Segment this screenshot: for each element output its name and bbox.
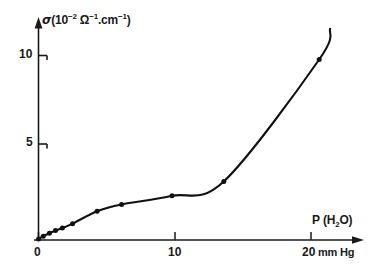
x-title-symbol: P (312, 213, 320, 227)
chart-plot-area (0, 0, 389, 277)
sigma-symbol: σ (42, 13, 51, 27)
data-curve (39, 29, 331, 239)
data-point (70, 221, 75, 226)
data-point (119, 202, 124, 207)
y-title-base: 10 (55, 13, 68, 27)
chart-figure: σ(10−2 Ω−1.cm−1) P (H2O) mm Hg 10 5 0 10… (0, 0, 389, 277)
x-title-open: (H (323, 213, 335, 227)
data-point (36, 237, 41, 242)
x-tick-label-20: 20 (302, 245, 315, 259)
x-axis-unit-label: mm Hg (318, 246, 354, 258)
ohm-symbol: Ω (80, 13, 89, 27)
data-point (221, 179, 226, 184)
data-point (60, 226, 65, 231)
y-title-exp3: −1 (118, 12, 127, 21)
y-title-exp2: −1 (89, 12, 98, 21)
x-tick-label-0: 0 (34, 245, 41, 259)
y-axis-ticks (39, 56, 48, 149)
x-axis-title: P (H2O) (312, 213, 352, 227)
data-point (47, 231, 52, 236)
data-point (95, 209, 100, 214)
y-tick-label-10: 10 (19, 47, 32, 61)
x-axis-ticks (39, 232, 312, 240)
data-point-markers (36, 57, 322, 242)
y-title-exp1: −2 (68, 12, 77, 21)
y-axis-title: σ(10−2 Ω−1.cm−1) (42, 13, 131, 27)
x-axis (34, 236, 364, 244)
data-point (53, 228, 58, 233)
x-tick-label-10: 10 (168, 245, 181, 259)
data-point (41, 234, 46, 239)
data-point (317, 57, 322, 62)
x-title-close: O) (339, 213, 352, 227)
y-title-close: ) (127, 13, 131, 27)
y-title-cm: cm (101, 13, 118, 27)
data-point (170, 193, 175, 198)
y-axis (35, 17, 43, 240)
y-tick-label-5: 5 (26, 135, 33, 149)
